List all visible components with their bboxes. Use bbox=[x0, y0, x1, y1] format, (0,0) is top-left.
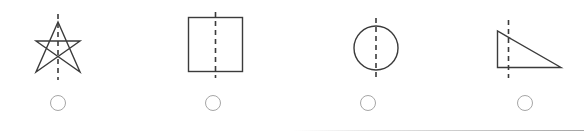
shape-area-triangle bbox=[473, 0, 577, 92]
radio-option-d[interactable] bbox=[517, 95, 533, 111]
option-star bbox=[6, 0, 110, 133]
square-icon bbox=[182, 5, 248, 85]
shape-area-circle bbox=[316, 0, 420, 92]
radio-wrap-star bbox=[6, 95, 110, 117]
option-square bbox=[161, 0, 265, 133]
radio-wrap-square bbox=[161, 95, 265, 117]
five-pointed-star-icon bbox=[20, 6, 96, 86]
radio-option-c[interactable] bbox=[360, 95, 376, 111]
shape-area-star bbox=[6, 0, 110, 92]
shape-area-square bbox=[161, 0, 265, 92]
radio-option-b[interactable] bbox=[205, 95, 221, 111]
option-circle bbox=[316, 0, 420, 133]
right-triangle-icon bbox=[491, 8, 571, 88]
radio-wrap-triangle bbox=[473, 95, 577, 117]
circle-icon bbox=[346, 8, 406, 88]
option-triangle bbox=[473, 0, 577, 133]
radio-wrap-circle bbox=[316, 95, 420, 117]
bottom-divider bbox=[292, 130, 584, 131]
radio-option-a[interactable] bbox=[50, 95, 66, 111]
symmetry-options-group bbox=[0, 0, 584, 133]
